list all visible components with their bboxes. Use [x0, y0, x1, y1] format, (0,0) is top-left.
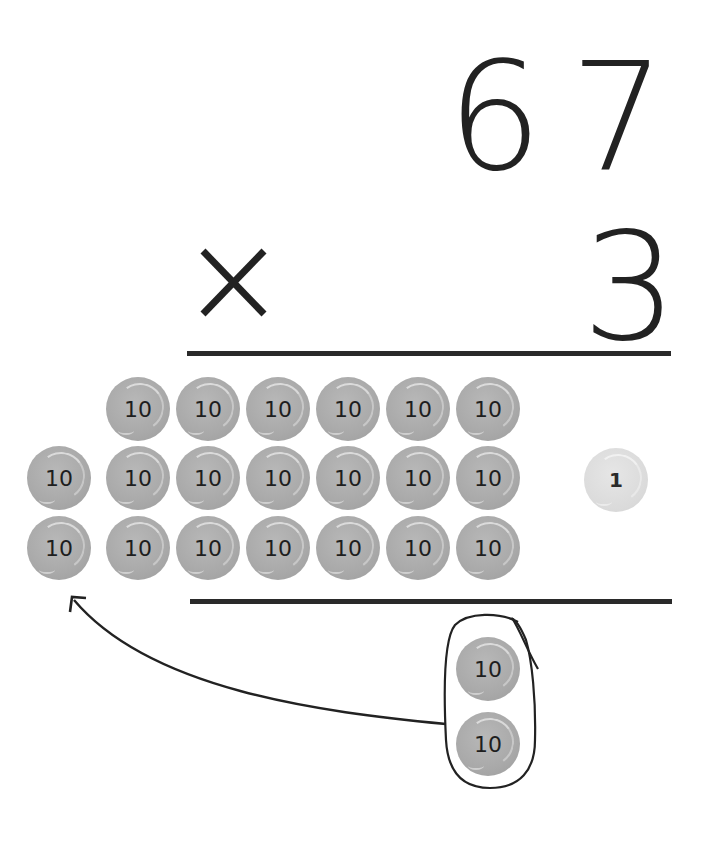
regroup-arrow — [74, 600, 446, 724]
regroup-annotation — [0, 0, 705, 851]
group-loop-tail — [512, 618, 538, 669]
group-loop — [445, 615, 535, 788]
